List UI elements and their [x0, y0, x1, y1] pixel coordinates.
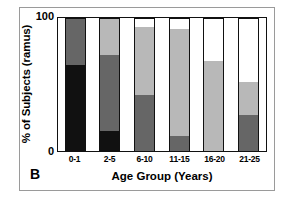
bar-segment-light-gray [134, 27, 155, 95]
x-axis-tick-labels: 0-12-56-1011-1516-2021-25 [57, 154, 267, 168]
bar-segment-light-gray [203, 61, 224, 151]
x-tick-2-5: 2-5 [95, 154, 125, 164]
bar-segment-dark-gray [169, 136, 190, 151]
bar-segment-white [169, 18, 190, 29]
bar-segment-light-gray [99, 18, 120, 55]
y-axis-tick-0: 0 [26, 145, 54, 157]
x-tick-16-20: 16-20 [200, 154, 230, 164]
x-axis-title: Age Group (Years) [57, 170, 267, 182]
y-axis-title: % of Subjects (ramus) [20, 14, 32, 154]
bar-segment-dark-gray [65, 18, 86, 65]
x-tick-11-15: 11-15 [165, 154, 195, 164]
bar-segment-white [134, 18, 155, 27]
figure-panel-b: % of Subjects (ramus) 100 0 0-12-56-1011… [0, 0, 293, 200]
x-tick-6-10: 6-10 [130, 154, 160, 164]
bar-segment-black [65, 65, 86, 151]
bar-segment-light-gray [238, 82, 259, 115]
bar-0-1 [65, 18, 86, 151]
bar-16-20 [203, 18, 224, 151]
bar-segment-dark-gray [134, 95, 155, 151]
y-axis-tick-100: 100 [26, 10, 54, 22]
plot-area [57, 17, 267, 152]
bar-segment-black [99, 131, 120, 151]
bar-21-25 [238, 18, 259, 151]
bar-segment-white [238, 18, 259, 82]
bar-segment-dark-gray [238, 115, 259, 151]
panel-label: B [30, 166, 40, 182]
x-tick-0-1: 0-1 [60, 154, 90, 164]
bar-segment-light-gray [169, 29, 190, 137]
bar-11-15 [169, 18, 190, 151]
bar-6-10 [134, 18, 155, 151]
x-tick-21-25: 21-25 [235, 154, 265, 164]
bar-segment-dark-gray [99, 55, 120, 131]
bar-segment-white [203, 18, 224, 61]
bar-2-5 [99, 18, 120, 151]
